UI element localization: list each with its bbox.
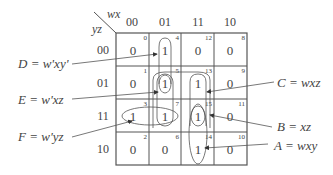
svg-text:9: 9 — [242, 67, 246, 75]
svg-text:8: 8 — [242, 34, 246, 42]
cell-m2: 0 — [130, 142, 137, 157]
row-variable: yz — [91, 22, 102, 36]
svg-text:11: 11 — [238, 100, 245, 108]
svg-text:2: 2 — [144, 133, 148, 141]
cell-m5: 1 — [162, 76, 169, 91]
cell-m6: 0 — [162, 142, 169, 157]
term-D: D = w'xy' — [17, 56, 69, 71]
column-header-00: 00 — [126, 15, 138, 29]
cell-m15: 1 — [195, 109, 202, 124]
svg-text:10: 10 — [238, 133, 246, 141]
term-labels: D = w'xy' E = w'xz F = w'yz C = wxz B = … — [17, 56, 320, 153]
row-header-00: 00 — [97, 43, 109, 57]
svg-text:0: 0 — [144, 34, 148, 42]
term-A: A = wxy — [273, 138, 317, 153]
svg-text:1: 1 — [144, 67, 148, 75]
cell-m10: 0 — [227, 142, 234, 157]
row-header-10: 10 — [97, 142, 109, 156]
cell-m1: 0 — [130, 76, 137, 91]
svg-text:14: 14 — [205, 133, 213, 141]
cell-m7: 1 — [162, 109, 169, 124]
svg-text:12: 12 — [205, 34, 213, 42]
column-header-01: 01 — [159, 15, 171, 29]
row-header-01: 01 — [97, 76, 109, 90]
cell-m0: 0 — [130, 43, 137, 58]
column-header-11: 11 — [192, 15, 204, 29]
term-E: E = w'xz — [17, 92, 64, 107]
svg-text:5: 5 — [176, 67, 180, 75]
cell-m13: 1 — [195, 76, 202, 91]
karnaugh-map: wx yz 00 01 11 10 00 01 11 10 0 1 0 0 0 … — [0, 0, 333, 175]
cell-m4: 1 — [162, 43, 169, 58]
term-B: B = xz — [277, 119, 311, 134]
svg-text:4: 4 — [176, 34, 180, 42]
row-header-11: 11 — [97, 109, 109, 123]
cell-m11: 0 — [227, 109, 234, 124]
cell-m12: 0 — [195, 43, 202, 58]
column-header-10: 10 — [224, 15, 236, 29]
svg-text:7: 7 — [176, 100, 180, 108]
term-C: C = wxz — [277, 75, 320, 90]
column-variable: wx — [107, 7, 121, 21]
term-F: F = w'yz — [17, 129, 64, 144]
cell-m8: 0 — [227, 43, 234, 58]
svg-text:6: 6 — [176, 133, 180, 141]
cell-m14: 1 — [195, 142, 202, 157]
